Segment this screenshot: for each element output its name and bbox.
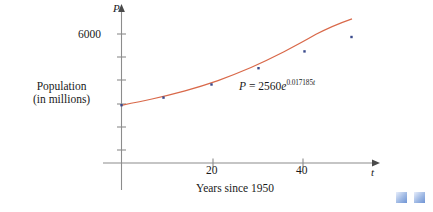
data-point (257, 67, 259, 69)
y-axis-caption-line-1: Population (37, 80, 87, 92)
corner-decoration (396, 192, 425, 203)
corner-square-icon (414, 192, 425, 203)
equation-coefficient: 2560 (258, 80, 281, 92)
equation-annotation: P = 2560e0.017185t (239, 79, 315, 93)
corner-square-icon (396, 192, 407, 203)
equation-exponent: 0.017185t (286, 78, 315, 87)
population-growth-figure: P t 6000 20 40 Population (in millions) … (0, 0, 433, 212)
x-axis-caption: Years since 1950 (196, 182, 274, 195)
data-point (120, 104, 122, 106)
equation-equals: = (246, 80, 258, 92)
x-axis-variable-label: t (371, 166, 374, 178)
data-points (120, 36, 352, 107)
exponential-fit-curve (122, 19, 353, 106)
x-axis-tick-label-20: 20 (206, 164, 218, 177)
data-point (350, 36, 352, 38)
equation-exponent-variable: t (313, 78, 315, 87)
plot-area (0, 0, 433, 212)
equation-exponent-rate: 0.017185 (286, 78, 313, 87)
data-point (162, 96, 164, 98)
equation-lhs: P (239, 80, 246, 92)
data-point (303, 50, 305, 52)
y-axis-tick-label-6000: 6000 (78, 28, 101, 41)
y-axis-variable-label: P (113, 2, 120, 14)
y-axis-caption: Population (in millions) (33, 80, 90, 106)
x-axis-tick-label-40: 40 (296, 164, 308, 177)
y-axis-caption-line-2: (in millions) (33, 93, 90, 106)
data-point (210, 83, 212, 85)
